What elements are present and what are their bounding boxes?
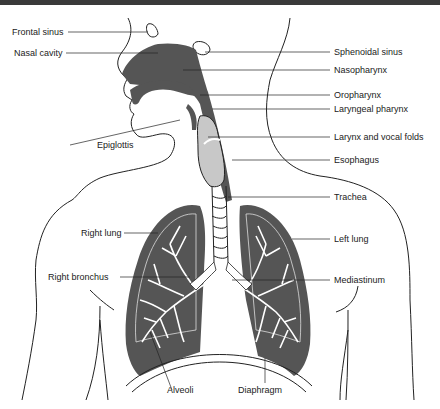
label-diaphragm: Diaphragm bbox=[238, 385, 282, 395]
label-mediastinum: Mediastinum bbox=[334, 275, 385, 285]
label-sphenoidal-sinus: Sphenoidal sinus bbox=[334, 47, 403, 57]
label-larynx-vocal-folds: Larynx and vocal folds bbox=[334, 132, 424, 142]
label-epiglottis: Epiglottis bbox=[97, 140, 134, 150]
label-frontal-sinus: Frontal sinus bbox=[12, 27, 64, 37]
label-right-lung: Right lung bbox=[81, 228, 122, 238]
label-trachea: Trachea bbox=[334, 192, 367, 202]
right-lung bbox=[126, 205, 209, 376]
label-nasal-cavity: Nasal cavity bbox=[14, 48, 63, 58]
label-oropharynx: Oropharynx bbox=[334, 90, 382, 100]
label-left-lung: Left lung bbox=[334, 234, 369, 244]
left-lung bbox=[234, 205, 311, 376]
label-nasopharynx: Nasopharynx bbox=[334, 65, 388, 75]
label-right-bronchus: Right bronchus bbox=[48, 272, 109, 282]
airway bbox=[122, 43, 232, 202]
label-laryngeal-pharynx: Laryngeal pharynx bbox=[334, 104, 409, 114]
label-alveoli: Alveoli bbox=[167, 385, 194, 395]
label-esophagus: Esophagus bbox=[334, 155, 380, 165]
respiratory-diagram: Frontal sinus Nasal cavity Sphenoidal si… bbox=[0, 0, 440, 409]
